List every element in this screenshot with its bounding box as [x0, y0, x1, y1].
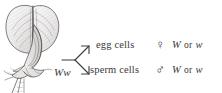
mars-male-icon: ♂	[148, 63, 172, 76]
gamete-row-sperm: sperm cells ♂ W or w	[90, 63, 203, 76]
sperm-allele-first: W	[172, 64, 181, 75]
sperm-allele-text: W or w	[172, 64, 203, 75]
sperm-allele-conjunction: or	[184, 65, 193, 75]
egg-allele-first: W	[172, 39, 181, 50]
egg-cells-label: egg cells	[96, 39, 148, 50]
genetics-gamete-figure: Ww egg cells ♀ W or w sperm cells	[0, 0, 222, 93]
egg-allele-conjunction: or	[184, 40, 193, 50]
sperm-allele-second: w	[195, 64, 202, 75]
venus-female-icon: ♀	[148, 38, 172, 51]
egg-allele-second: w	[195, 39, 202, 50]
egg-allele-text: W or w	[172, 39, 203, 50]
gamete-row-egg: egg cells ♀ W or w	[96, 38, 203, 51]
sperm-cells-label: sperm cells	[90, 64, 148, 75]
